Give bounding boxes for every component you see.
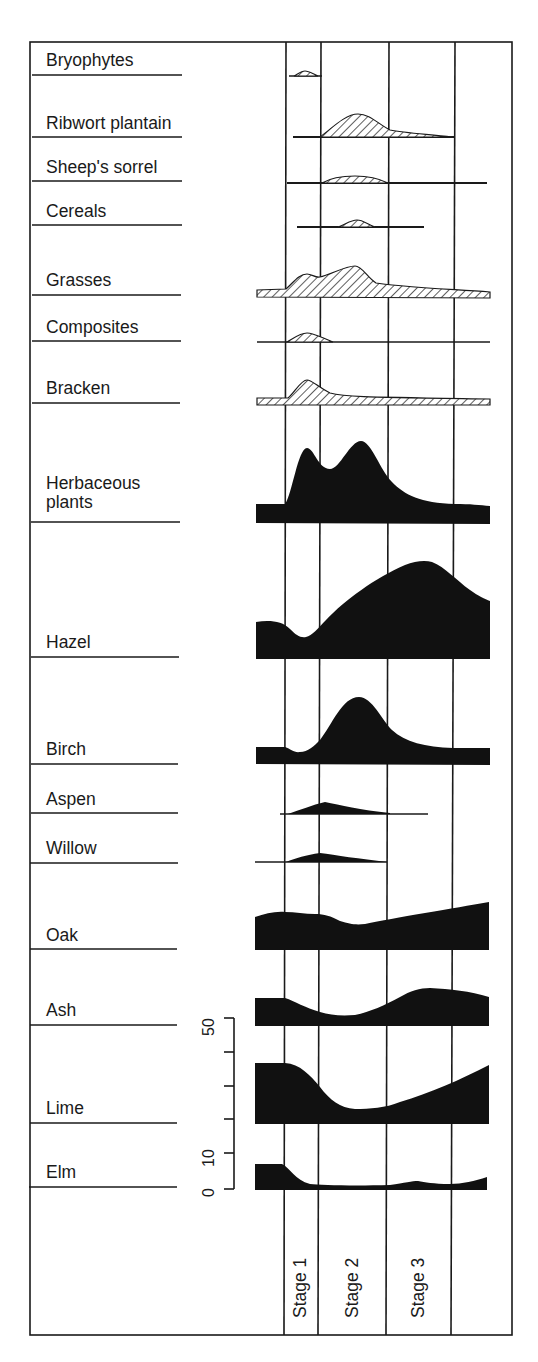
scale-label-0: 0 <box>200 1188 218 1197</box>
curve-bracken <box>257 380 490 405</box>
curve-ash <box>255 988 489 1026</box>
label-underlines <box>29 75 182 1187</box>
label-herbaceous-plants: Herbaceous plants <box>46 474 140 512</box>
label-ash: Ash <box>46 1001 76 1020</box>
label-sheeps-sorrel: Sheep's sorrel <box>46 158 157 177</box>
label-aspen: Aspen <box>46 790 96 809</box>
label-oak: Oak <box>46 926 78 945</box>
curve-willow <box>255 853 387 862</box>
curve-oak <box>255 902 489 950</box>
curve-hazel <box>256 561 490 659</box>
label-ribwort-plantain: Ribwort plantain <box>46 114 171 133</box>
curve-herbaceous-plants <box>256 441 490 524</box>
stage-label-3: Stage 3 <box>408 1258 429 1318</box>
curve-bryophytes <box>289 71 322 76</box>
scale-label-10: 10 <box>200 1149 218 1167</box>
label-elm: Elm <box>46 1163 76 1182</box>
label-grasses: Grasses <box>46 271 111 290</box>
label-birch: Birch <box>46 740 86 759</box>
stage-label-1: Stage 1 <box>290 1258 311 1318</box>
label-bracken: Bracken <box>46 379 110 398</box>
label-composites: Composites <box>46 318 138 337</box>
curve-aspen <box>280 802 428 814</box>
curve-composites <box>257 333 490 342</box>
curve-cereals <box>297 220 424 227</box>
curve-ribwort-plantain <box>293 114 455 137</box>
frame-border <box>30 42 512 1335</box>
label-willow: Willow <box>46 839 97 858</box>
scale-label-50: 50 <box>200 1018 218 1036</box>
curve-lime <box>255 1063 489 1124</box>
curve-birch <box>256 697 490 765</box>
label-lime: Lime <box>46 1099 84 1118</box>
stage-label-2: Stage 2 <box>342 1258 363 1318</box>
stage-dividers <box>284 42 455 1335</box>
label-cereals: Cereals <box>46 202 106 221</box>
scale-bar <box>224 1018 234 1189</box>
curve-sheeps-sorrel <box>287 176 487 183</box>
label-bryophytes: Bryophytes <box>46 51 134 70</box>
label-hazel: Hazel <box>46 633 91 652</box>
